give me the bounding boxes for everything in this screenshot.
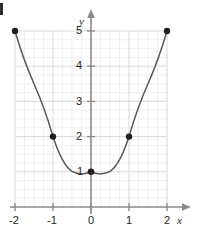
x-tick-label-neg1: -1: [47, 215, 57, 226]
data-point: [164, 28, 170, 34]
coordinate-plane-svg: [0, 0, 199, 237]
x-tick-label-2: 2: [164, 215, 170, 226]
y-tick-label-1: 1: [77, 166, 83, 177]
x-tick-label-0: 0: [88, 215, 94, 226]
y-tick-label-3: 3: [76, 96, 82, 107]
y-tick-label-2: 2: [76, 131, 82, 142]
x-tick-label-neg2: -2: [9, 215, 19, 226]
x-axis-label: x: [177, 215, 182, 226]
y-axis-label: y: [79, 16, 84, 27]
data-point: [50, 133, 56, 139]
x-tick-label-1: 1: [126, 215, 132, 226]
y-tick-label-4: 4: [76, 60, 82, 71]
data-point: [88, 169, 94, 175]
data-point: [12, 28, 18, 34]
data-point: [126, 133, 132, 139]
